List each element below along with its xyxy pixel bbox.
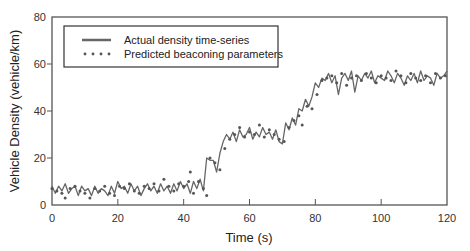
x-tick-label: 40: [178, 212, 190, 224]
density-chart: 020406080100120 020406080 Time (s) Vehic…: [0, 0, 470, 251]
data-point: [375, 81, 378, 84]
data-point: [439, 77, 442, 80]
data-point: [187, 180, 190, 183]
data-point: [128, 182, 131, 185]
data-point: [143, 185, 146, 188]
data-point: [429, 81, 432, 84]
legend-label-actual: Actual density time-series: [124, 34, 250, 46]
data-point: [233, 133, 236, 136]
plot-area: [51, 70, 448, 200]
data-point: [148, 187, 151, 190]
data-point: [243, 135, 246, 138]
data-point: [228, 138, 231, 141]
data-point: [93, 187, 96, 190]
data-point: [268, 128, 271, 131]
y-axis-title: Vehicle Density (vehicle/km): [7, 30, 22, 193]
legend-label-predicted: Predicted beaconing parameters: [124, 48, 283, 60]
data-point: [253, 133, 256, 136]
data-point: [192, 192, 195, 195]
data-point: [414, 77, 417, 80]
data-point: [167, 185, 170, 188]
y-tick-label: 40: [34, 105, 46, 117]
data-point: [238, 126, 241, 129]
data-point: [103, 185, 106, 188]
data-point: [182, 185, 185, 188]
y-axis: 020406080: [34, 11, 52, 211]
data-point: [325, 77, 328, 80]
data-point: [273, 133, 276, 136]
data-point: [360, 79, 363, 82]
data-point: [55, 189, 58, 192]
x-axis-title: Time (s): [225, 230, 272, 245]
data-point: [409, 72, 412, 75]
data-point: [213, 161, 216, 164]
data-point: [419, 79, 422, 82]
data-point: [345, 84, 348, 87]
data-point: [98, 189, 101, 192]
data-point: [399, 74, 402, 77]
series-dots-predicted: [51, 70, 447, 200]
data-point: [320, 79, 323, 82]
data-point: [172, 189, 175, 192]
data-point: [370, 77, 373, 80]
x-tick-label: 120: [438, 212, 456, 224]
data-point: [335, 81, 338, 84]
data-point: [113, 194, 116, 197]
data-point: [108, 192, 111, 195]
data-point: [138, 192, 141, 195]
data-point: [158, 189, 161, 192]
y-tick-label: 60: [34, 58, 46, 70]
x-tick-label: 60: [243, 212, 255, 224]
data-point: [258, 124, 261, 127]
data-point: [209, 157, 212, 160]
data-point: [79, 189, 82, 192]
y-tick-label: 80: [34, 11, 46, 23]
data-point: [248, 131, 251, 134]
x-axis: 020406080100120: [49, 199, 456, 224]
legend: Actual density time-series Predicted bea…: [64, 26, 283, 67]
data-point: [123, 187, 126, 190]
data-point: [365, 72, 368, 75]
data-point: [118, 185, 121, 188]
data-point: [424, 74, 427, 77]
legend-box: [64, 26, 278, 67]
data-point: [301, 124, 304, 127]
data-point: [380, 74, 383, 77]
data-point: [340, 72, 343, 75]
data-point: [278, 138, 281, 141]
data-point: [297, 114, 300, 117]
data-point: [74, 185, 77, 188]
data-point: [202, 187, 205, 190]
data-point: [385, 77, 388, 80]
data-point: [404, 81, 407, 84]
data-point: [283, 140, 286, 143]
x-tick-label: 20: [112, 212, 124, 224]
data-point: [133, 189, 136, 192]
y-tick-label: 20: [34, 152, 46, 164]
data-point: [292, 119, 295, 122]
data-point: [263, 135, 266, 138]
x-tick-label: 80: [309, 212, 321, 224]
data-point: [177, 182, 180, 185]
data-point: [205, 194, 208, 197]
data-point: [306, 105, 309, 108]
data-point: [69, 187, 72, 190]
data-point: [355, 74, 358, 77]
data-point: [162, 178, 165, 181]
data-point: [197, 180, 200, 183]
data-point: [189, 171, 192, 174]
data-point: [64, 196, 67, 199]
data-point: [88, 196, 91, 199]
data-point: [153, 182, 156, 185]
data-point: [83, 192, 86, 195]
data-point: [288, 126, 291, 129]
data-point: [395, 70, 398, 73]
data-point: [60, 192, 63, 195]
data-point: [311, 107, 314, 110]
data-point: [223, 147, 226, 150]
x-tick-label: 0: [49, 212, 55, 224]
data-point: [316, 93, 319, 96]
data-point: [218, 168, 221, 171]
data-point: [390, 79, 393, 82]
x-tick-label: 100: [372, 212, 390, 224]
